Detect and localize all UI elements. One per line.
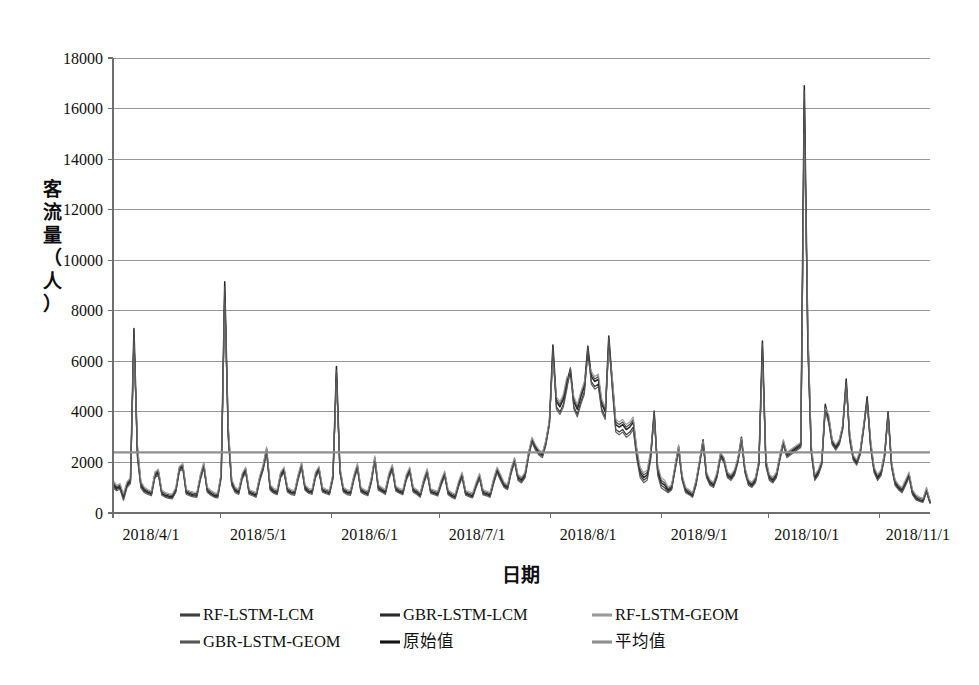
y-tick-label-14000: 14000 <box>63 151 103 168</box>
y-tick-label-8000: 8000 <box>71 302 103 319</box>
y-tick-label-4000: 4000 <box>71 403 103 420</box>
y-tick-label-10000: 10000 <box>63 252 103 269</box>
x-tick-label-0: 2018/4/1 <box>123 526 180 543</box>
legend-label-1: GBR-LSTM-LCM <box>403 605 528 624</box>
x-tick-label-2: 2018/6/1 <box>341 526 398 543</box>
legend-label-4: 原始值 <box>403 632 454 651</box>
legend-label-5: 平均值 <box>615 632 666 651</box>
x-tick-label-1: 2018/5/1 <box>230 526 287 543</box>
x-tick-label-6: 2018/10/1 <box>774 526 839 543</box>
x-tick-label-4: 2018/8/1 <box>560 526 617 543</box>
legend-item-1[interactable]: GBR-LSTM-LCM <box>380 605 528 624</box>
x-tick-label-3: 2018/7/1 <box>449 526 506 543</box>
x-tick-label-5: 2018/9/1 <box>671 526 728 543</box>
legend-label-0: RF-LSTM-LCM <box>203 605 314 624</box>
x-axis-title: 日期 <box>502 564 540 586</box>
y-axis-title-char-0: 客 <box>43 178 63 200</box>
x-tick-label-7: 2018/11/1 <box>886 526 950 543</box>
y-tick-label-18000: 18000 <box>63 50 103 67</box>
y-tick-label-0: 0 <box>95 505 103 522</box>
legend-item-2[interactable]: RF-LSTM-GEOM <box>592 605 739 624</box>
x-axis-title: 日期 <box>502 564 540 586</box>
legend-label-2: RF-LSTM-GEOM <box>615 605 739 624</box>
passenger-flow-line-chart: 0200040006000800010000120001400016000180… <box>0 0 979 685</box>
y-axis-title-char-5: ） <box>43 293 62 315</box>
legend-item-3[interactable]: GBR-LSTM-GEOM <box>180 632 341 651</box>
y-axis-title-char-1: 流 <box>43 201 62 223</box>
y-tick-label-2000: 2000 <box>71 454 103 471</box>
y-tick-label-12000: 12000 <box>63 201 103 218</box>
chart-figure: 0200040006000800010000120001400016000180… <box>0 0 979 685</box>
y-axis-title-char-4: 人 <box>43 270 63 292</box>
y-axis-title: 客流量（人） <box>43 178 63 315</box>
y-axis-title-char-3: （ <box>43 247 62 269</box>
legend-label-3: GBR-LSTM-GEOM <box>203 632 341 651</box>
y-axis-title-char-2: 量 <box>43 224 62 246</box>
y-tick-label-16000: 16000 <box>63 100 103 117</box>
y-tick-label-6000: 6000 <box>71 353 103 370</box>
